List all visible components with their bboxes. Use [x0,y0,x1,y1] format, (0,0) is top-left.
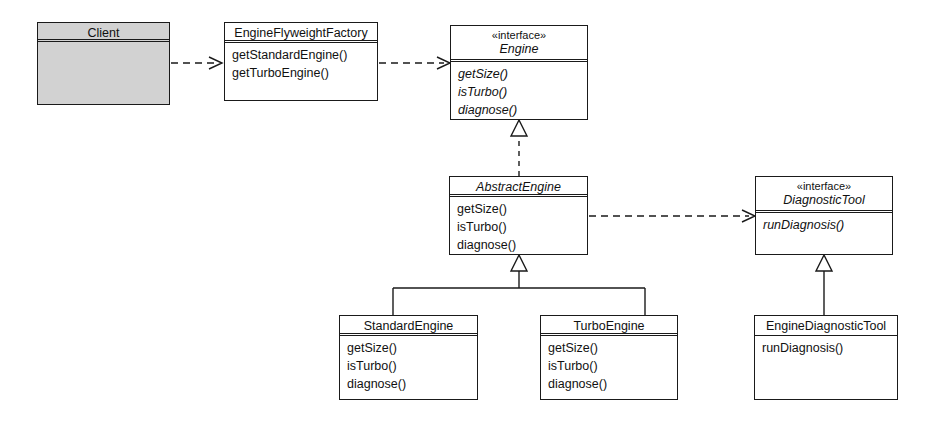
class-node-engine-flyweight-factory[interactable]: EngineFlyweightFactory getStandardEngine… [224,22,378,101]
class-node-standard-engine[interactable]: StandardEngine getSize() isTurbo() diagn… [339,315,478,400]
class-member: isTurbo() [548,358,671,376]
class-header: «interface» DiagnosticTool [756,177,892,213]
class-members: getSize() isTurbo() diagnose() [451,62,587,123]
class-members [38,42,169,52]
class-members: getStandardEngine() getTurboEngine() [225,43,377,87]
edge-client-to-factory [171,57,222,69]
class-member: getSize() [458,66,581,84]
class-name: EngineFlyweightFactory [229,26,373,41]
class-header: EngineFlyweightFactory [225,23,377,43]
class-header: TurboEngine [541,316,677,336]
edge-abstractengine-to-diagnostictool [589,210,755,222]
class-member: getSize() [457,201,581,219]
class-member: getSize() [548,340,671,358]
class-name: StandardEngine [344,319,473,334]
class-member: runDiagnosis() [763,217,886,235]
uml-class-diagram: Client EngineFlyweightFactory getStandar… [0,0,930,424]
class-stereotype: «interface» [760,180,888,193]
class-header: EngineDiagnosticTool [755,316,897,336]
class-name: Engine [455,42,583,57]
class-node-client[interactable]: Client [37,22,170,105]
class-member: diagnose() [457,237,581,255]
class-members: runDiagnosis() [755,336,897,362]
class-name: Client [42,26,165,41]
class-members: getSize() isTurbo() diagnose() [541,336,677,397]
class-header: AbstractEngine [450,177,587,197]
class-name: DiagnosticTool [760,193,888,208]
class-header: StandardEngine [340,316,477,336]
class-stereotype: «interface» [455,29,583,42]
class-node-turbo-engine[interactable]: TurboEngine getSize() isTurbo() diagnose… [540,315,678,400]
class-member: isTurbo() [458,84,581,102]
class-members: runDiagnosis() [756,213,892,239]
edge-engines-extend-abstractengine [393,255,645,315]
class-member: isTurbo() [457,219,581,237]
class-member: getStandardEngine() [232,47,371,65]
class-node-engine-diagnostic-tool[interactable]: EngineDiagnosticTool runDiagnosis() [754,315,898,400]
class-node-diagnostic-tool[interactable]: «interface» DiagnosticTool runDiagnosis(… [755,176,893,255]
class-node-abstract-engine[interactable]: AbstractEngine getSize() isTurbo() diagn… [449,176,588,255]
class-header: Client [38,23,169,42]
class-name: TurboEngine [545,319,673,334]
class-member: isTurbo() [347,358,471,376]
class-header: «interface» Engine [451,26,587,62]
class-name: AbstractEngine [454,180,583,195]
class-member: diagnose() [347,376,471,394]
class-member: runDiagnosis() [762,340,891,358]
class-node-engine[interactable]: «interface» Engine getSize() isTurbo() d… [450,25,588,120]
edge-factory-to-engine [379,57,450,69]
class-members: getSize() isTurbo() diagnose() [450,197,587,258]
class-member: getTurboEngine() [232,65,371,83]
class-members: getSize() isTurbo() diagnose() [340,336,477,397]
class-member: diagnose() [548,376,671,394]
edge-enginediagnostictool-realizes-diagnostictool [816,255,832,315]
edge-abstractengine-realizes-engine [511,120,527,176]
class-member: diagnose() [458,102,581,120]
class-name: EngineDiagnosticTool [759,319,893,334]
class-member: getSize() [347,340,471,358]
